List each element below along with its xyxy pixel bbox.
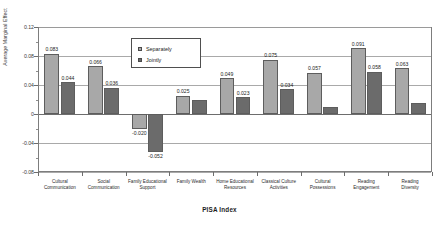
y-axis-tick-label: 0 (10, 111, 34, 117)
bar-value-label: 0.034 (281, 82, 294, 88)
legend-label-jointly: Jointly (146, 57, 161, 63)
x-axis-tick-mark (388, 172, 389, 176)
x-axis-category-label: Home EducationalResources (211, 179, 259, 190)
x-axis-category-label: CulturalPossessions (299, 179, 347, 190)
bar-jointly (61, 82, 76, 114)
y-axis-title: Average Marginal Effect (2, 0, 8, 82)
bar-value-label: 0.044 (62, 75, 75, 81)
chart-figure: Average Marginal Effect 0.120.080.040-0.… (0, 0, 439, 225)
x-axis-tick-mark (126, 172, 127, 176)
bar-value-label: 0.023 (237, 90, 250, 96)
x-axis-tick-mark (169, 172, 170, 176)
bar-jointly (323, 107, 338, 114)
gridline (39, 114, 431, 115)
bar-separately (395, 68, 410, 114)
y-axis-tick-mark (34, 85, 38, 86)
bar-jointly (236, 97, 251, 114)
bar-value-label: 0.049 (221, 71, 234, 77)
legend-swatch-jointly-icon (138, 58, 142, 62)
bar-value-label: 0.058 (368, 64, 381, 70)
legend-item-jointly: Jointly (138, 54, 200, 65)
bar-jointly (280, 89, 295, 114)
x-axis-tick-mark (257, 172, 258, 176)
y-axis-minor-tick (36, 129, 39, 130)
chart-legend: Separately Jointly (131, 38, 201, 68)
x-axis-tick-mark (213, 172, 214, 176)
bar-value-label: 0.036 (105, 80, 118, 86)
y-axis-tick-mark (34, 56, 38, 57)
bar-separately (220, 78, 235, 114)
gridline (39, 143, 431, 144)
bar-value-label: -0.052 (148, 153, 162, 159)
y-axis-minor-tick (36, 42, 39, 43)
bar-separately (176, 96, 191, 114)
bar-value-label: 0.066 (89, 59, 102, 65)
bar-separately (307, 73, 322, 114)
bar-separately (263, 60, 278, 114)
bar-value-label: 0.083 (45, 46, 58, 52)
legend-item-separately: Separately (138, 43, 200, 54)
y-axis-tick-mark (34, 143, 38, 144)
x-axis-tick-mark (38, 172, 39, 176)
x-axis-category-label: SocialCommunication (80, 179, 128, 190)
gridline (39, 172, 431, 173)
bar-jointly (104, 88, 119, 114)
y-axis-minor-tick (36, 71, 39, 72)
y-axis-tick-label: 0.08 (10, 53, 34, 59)
bar-separately (44, 54, 59, 114)
bar-value-label: 0.057 (308, 65, 321, 71)
bar-value-label: 0.063 (396, 61, 409, 67)
bar-value-label: 0.075 (264, 52, 277, 58)
y-axis-minor-tick (36, 158, 39, 159)
bar-separately (351, 48, 366, 114)
x-axis-category-label: Classical CultureActivities (255, 179, 303, 190)
bar-value-label: -0.020 (132, 130, 146, 136)
bar-jointly (411, 103, 426, 114)
x-axis-tick-mark (82, 172, 83, 176)
x-axis-tick-mark (344, 172, 345, 176)
bar-jointly (192, 100, 207, 114)
x-axis-tick-mark (301, 172, 302, 176)
bar-value-label: 0.091 (352, 41, 365, 47)
gridline (39, 56, 431, 57)
y-axis-tick-mark (34, 114, 38, 115)
x-axis-category-label: Family Wealth (167, 179, 215, 185)
y-axis-minor-tick (36, 100, 39, 101)
y-axis-tick-mark (34, 27, 38, 28)
y-axis-tick-label: -0.04 (10, 140, 34, 146)
x-axis-title: PISA Index (0, 206, 439, 213)
bar-separately (88, 66, 103, 114)
y-axis-tick-label: -0.08 (10, 169, 34, 175)
x-axis-category-label: ReadingDiversity (386, 179, 434, 190)
bar-jointly (148, 114, 163, 152)
bar-separately (132, 114, 147, 129)
x-axis-tick-mark (432, 172, 433, 176)
y-axis-tick-label: 0.04 (10, 82, 34, 88)
bar-value-label: 0.025 (177, 88, 190, 94)
x-axis-category-label: Family EducationalSupport (123, 179, 171, 190)
bar-jointly (367, 72, 382, 114)
legend-swatch-separately-icon (138, 47, 142, 51)
x-axis-category-label: ReadingEngagement (342, 179, 390, 190)
x-axis-category-label: CulturalCommunication (36, 179, 84, 190)
legend-label-separately: Separately (146, 46, 172, 52)
y-axis-tick-label: 0.12 (10, 24, 34, 30)
